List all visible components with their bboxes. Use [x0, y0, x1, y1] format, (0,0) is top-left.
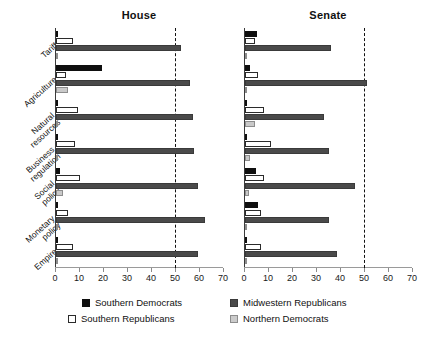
bar: [56, 155, 58, 161]
x-tick-label: 50: [359, 273, 369, 283]
legend-label-northern-democrats: Northern Democrats: [243, 313, 329, 324]
bar-group: [245, 131, 412, 165]
bar: [56, 224, 58, 230]
x-tick-mark: [412, 268, 413, 272]
bar: [56, 53, 58, 59]
panel-title-senate: Senate: [244, 9, 412, 21]
legend-item-midwestern-republicans: Midwestern Republicans: [230, 297, 347, 308]
x-tick-mark: [268, 268, 269, 272]
bar-group: [245, 62, 412, 96]
bar: [245, 217, 329, 223]
bar: [56, 80, 190, 86]
bar: [245, 237, 247, 243]
chart-legend: Southern Democrats Southern Republicans …: [60, 297, 400, 335]
bar: [245, 224, 247, 230]
bar: [245, 258, 247, 264]
bar: [56, 175, 80, 181]
bar: [56, 114, 193, 120]
x-tick-mark: [388, 268, 389, 272]
legend-swatch-midwestern-republicans: [230, 299, 238, 307]
bar-group: [56, 165, 223, 199]
bar: [56, 107, 78, 113]
legend-item-northern-democrats: Northern Democrats: [230, 313, 329, 324]
bar: [56, 65, 102, 71]
bar: [56, 244, 73, 250]
x-tick-mark: [244, 268, 245, 272]
bar-group: [245, 28, 412, 62]
x-tick-mark: [340, 268, 341, 272]
bar: [56, 121, 58, 127]
legend-swatch-southern-republicans: [68, 315, 76, 323]
x-tick-label: 70: [407, 273, 417, 283]
x-tick-mark: [151, 268, 152, 272]
bar-group: [56, 62, 223, 96]
x-tick-labels-senate: 010203040506070: [244, 268, 412, 290]
x-tick-mark: [127, 268, 128, 272]
x-tick-mark: [103, 268, 104, 272]
bar: [56, 251, 198, 257]
bar: [56, 202, 58, 208]
category-label: Agriculture: [23, 76, 59, 110]
legend-label-southern-republicans: Southern Republicans: [81, 313, 174, 324]
legend-item-southern-republicans: Southern Republicans: [68, 313, 174, 324]
legend-label-southern-democrats: Southern Democrats: [95, 297, 182, 308]
plot-area-senate: [244, 28, 412, 268]
x-tick-label: 30: [122, 273, 132, 283]
bar-group: [245, 199, 412, 233]
x-tick-label: 60: [383, 273, 393, 283]
x-tick-label: 20: [287, 273, 297, 283]
bar: [56, 45, 181, 51]
legend-label-midwestern-republicans: Midwestern Republicans: [243, 297, 347, 308]
bar: [56, 217, 205, 223]
bar: [245, 183, 355, 189]
x-tick-mark: [175, 268, 176, 272]
bar: [245, 244, 261, 250]
bar: [56, 237, 58, 243]
x-tick-label: 30: [311, 273, 321, 283]
bar-group: [245, 234, 412, 268]
bar: [245, 251, 337, 257]
x-tick-label: 20: [98, 273, 108, 283]
bar: [56, 31, 58, 37]
bar: [245, 134, 247, 140]
bar: [56, 38, 73, 44]
x-tick-labels-house: 010203040506070: [55, 268, 223, 290]
bar: [245, 87, 247, 93]
x-tick-label: 0: [52, 273, 57, 283]
bar: [245, 100, 247, 106]
x-tick-label: 60: [194, 273, 204, 283]
legend-swatch-northern-democrats: [230, 315, 238, 323]
bar: [56, 210, 68, 216]
bar: [245, 168, 256, 174]
x-tick-label: 50: [170, 273, 180, 283]
bar: [245, 148, 329, 154]
bar-group: [56, 131, 223, 165]
bar-group: [56, 28, 223, 62]
bar: [56, 258, 58, 264]
bar: [56, 72, 66, 78]
bar: [56, 141, 75, 147]
bar: [245, 72, 258, 78]
bar: [245, 190, 249, 196]
bar: [56, 87, 68, 93]
x-tick-label: 70: [218, 273, 228, 283]
x-tick-mark: [364, 268, 365, 272]
bar-group: [56, 199, 223, 233]
category-axis-labels: TariffAgricultureNatural resourcesBusine…: [0, 28, 60, 268]
bar-group: [245, 97, 412, 131]
x-tick-label: 0: [241, 273, 246, 283]
bar: [245, 202, 258, 208]
legend-swatch-southern-democrats: [82, 299, 90, 307]
plot-area-house: [55, 28, 223, 268]
bar: [245, 65, 250, 71]
x-tick-mark: [55, 268, 56, 272]
panel-title-house: House: [55, 9, 223, 21]
bar-group: [56, 97, 223, 131]
bar-group: [245, 165, 412, 199]
legend-item-southern-democrats: Southern Democrats: [82, 297, 182, 308]
bar: [245, 121, 255, 127]
bar: [56, 134, 58, 140]
x-tick-mark: [292, 268, 293, 272]
x-tick-mark: [199, 268, 200, 272]
bar-group: [56, 234, 223, 268]
